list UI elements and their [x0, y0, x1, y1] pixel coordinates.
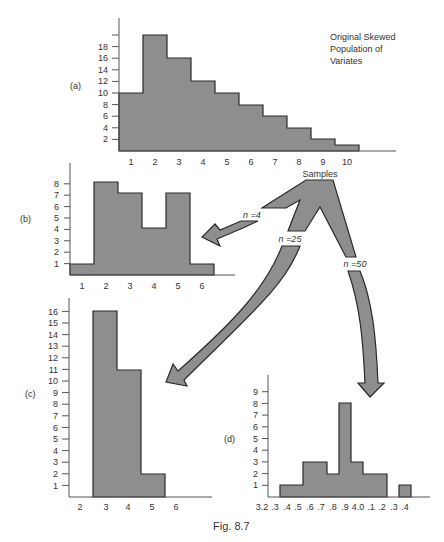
- figure-caption: Fig. 8.7: [213, 520, 250, 532]
- svg-text:2: 2: [152, 157, 157, 167]
- svg-text:.9: .9: [341, 502, 349, 512]
- svg-text:3: 3: [176, 157, 181, 167]
- histogram-c: [93, 311, 165, 497]
- histogram-b: [70, 182, 214, 275]
- svg-text:.1: .1: [367, 502, 375, 512]
- svg-text:18: 18: [98, 42, 108, 52]
- svg-text:1: 1: [54, 259, 59, 269]
- svg-text:.3: .3: [390, 502, 398, 512]
- svg-text:1: 1: [128, 157, 133, 167]
- arrow-label-b: n =4: [243, 210, 261, 220]
- arrow-fork-icon: [262, 180, 356, 257]
- svg-text:.5: .5: [294, 502, 302, 512]
- chart-a: (a) Original Skewed Population of Variat…: [70, 18, 396, 167]
- svg-text:8: 8: [103, 100, 108, 110]
- svg-text:Variates: Variates: [330, 56, 363, 66]
- svg-text:4: 4: [151, 281, 156, 291]
- svg-text:2: 2: [77, 502, 82, 512]
- y-ticks-c: 1 2 3 4 5 6 7 8 9 10 11 12 13 14 15 16: [48, 307, 69, 491]
- svg-text:4: 4: [54, 224, 59, 234]
- svg-text:3.2: 3.2: [256, 502, 269, 512]
- svg-text:3: 3: [54, 236, 59, 246]
- svg-text:8: 8: [253, 399, 258, 409]
- panel-label-d: (d): [224, 434, 235, 444]
- svg-text:6: 6: [199, 281, 204, 291]
- svg-text:6: 6: [253, 422, 258, 432]
- arrow-label-d: n =50: [344, 259, 367, 269]
- svg-text:9: 9: [253, 387, 258, 397]
- svg-text:2: 2: [53, 469, 58, 479]
- svg-text:6: 6: [173, 502, 178, 512]
- svg-text:12: 12: [98, 76, 108, 86]
- svg-text:2: 2: [253, 469, 258, 479]
- svg-text:9: 9: [53, 388, 58, 398]
- svg-text:4: 4: [103, 123, 108, 133]
- x-ticks-a: 1 2 3 4 5 6 7 8 9 10: [128, 157, 352, 167]
- svg-text:1: 1: [53, 481, 58, 491]
- svg-text:2: 2: [103, 281, 108, 291]
- chart-d: (d) 1 2 3 4 5 6 7 8 9 3.2 .3 .4 .5 .6 .7…: [224, 375, 430, 512]
- svg-text:7: 7: [272, 157, 277, 167]
- svg-text:.4: .4: [401, 502, 409, 512]
- svg-text:7: 7: [253, 410, 258, 420]
- svg-text:1: 1: [253, 480, 258, 490]
- panel-label-b: (b): [20, 214, 31, 224]
- svg-text:5: 5: [224, 157, 229, 167]
- svg-text:3: 3: [53, 457, 58, 467]
- svg-text:7: 7: [54, 190, 59, 200]
- svg-text:4: 4: [253, 445, 258, 455]
- svg-text:6: 6: [54, 202, 59, 212]
- svg-text:3: 3: [103, 502, 108, 512]
- svg-text:.6: .6: [306, 502, 314, 512]
- svg-text:12: 12: [48, 353, 58, 363]
- chart-a-title: Original Skewed Population of Variates: [330, 32, 396, 66]
- svg-text:5: 5: [149, 502, 154, 512]
- svg-text:16: 16: [48, 307, 58, 317]
- x-ticks-b: 1 2 3 4 5 6: [79, 281, 204, 291]
- svg-text:10: 10: [48, 376, 58, 386]
- svg-text:4: 4: [53, 446, 58, 456]
- histogram-d-outlier: [399, 485, 411, 497]
- x-ticks-d: 3.2 .3 .4 .5 .6 .7 .8 .9 4.0 .1 .2 .3 .4: [256, 502, 409, 512]
- svg-text:.2: .2: [378, 502, 386, 512]
- svg-text:10: 10: [342, 157, 352, 167]
- svg-text:14: 14: [98, 65, 108, 75]
- panel-label-c: (c): [25, 389, 36, 399]
- svg-text:11: 11: [49, 365, 58, 375]
- svg-text:2: 2: [103, 134, 108, 144]
- svg-text:9: 9: [320, 157, 325, 167]
- svg-text:.8: .8: [329, 502, 337, 512]
- svg-text:14: 14: [48, 330, 58, 340]
- histogram-d: [280, 403, 387, 497]
- svg-text:5: 5: [53, 434, 58, 444]
- x-ticks-c: 2 3 4 5 6: [77, 502, 178, 512]
- svg-text:.3: .3: [271, 502, 279, 512]
- svg-text:4.0: 4.0: [352, 502, 365, 512]
- svg-text:6: 6: [103, 111, 108, 121]
- svg-text:3: 3: [253, 457, 258, 467]
- svg-text:.4: .4: [283, 502, 291, 512]
- svg-text:6: 6: [53, 423, 58, 433]
- chart-b: (b) 1 2 3 4 5 6 7 8 1 2 3 4 5 6: [20, 163, 235, 291]
- svg-text:10: 10: [98, 88, 108, 98]
- svg-text:.7: .7: [317, 502, 325, 512]
- y-ticks-a: 2 4 6 8 10 12 14 16 18: [98, 35, 119, 144]
- svg-text:Population of: Population of: [330, 44, 383, 54]
- svg-text:2: 2: [54, 247, 59, 257]
- arrow-to-b-icon: [202, 221, 258, 246]
- y-ticks-b: 1 2 3 4 5 6 7 8: [54, 179, 70, 269]
- svg-text:4: 4: [200, 157, 205, 167]
- svg-text:4: 4: [125, 502, 130, 512]
- svg-text:8: 8: [296, 157, 301, 167]
- svg-text:15: 15: [48, 318, 58, 328]
- figure-canvas: (a) Original Skewed Population of Variat…: [0, 0, 444, 542]
- svg-text:5: 5: [175, 281, 180, 291]
- arrow-label-c: n =25: [279, 234, 303, 244]
- histogram-a: [119, 35, 359, 151]
- samples-label: Samples: [302, 169, 338, 179]
- svg-text:7: 7: [53, 411, 58, 421]
- svg-text:16: 16: [98, 53, 108, 63]
- panel-label-a: (a): [70, 81, 81, 91]
- chart-c: (c) 1 2 3 4 5 6 7 8 9 10 11 12 13 14 15 …: [25, 298, 212, 512]
- y-ticks-d: 1 2 3 4 5 6 7 8 9: [253, 387, 268, 490]
